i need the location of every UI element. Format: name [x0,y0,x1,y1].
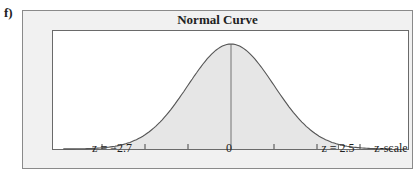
normal-curve-graphic [53,31,410,151]
shaded-region [115,44,339,149]
z-right-label: z = 2.5 [321,141,354,156]
chart-title: Normal Curve [23,12,412,28]
plot-area [52,30,409,150]
part-label: f) [4,5,13,21]
axis-label: z-scale [374,141,407,156]
z-left-label: z = −2.7 [92,141,132,156]
z-zero-label: 0 [226,141,232,156]
